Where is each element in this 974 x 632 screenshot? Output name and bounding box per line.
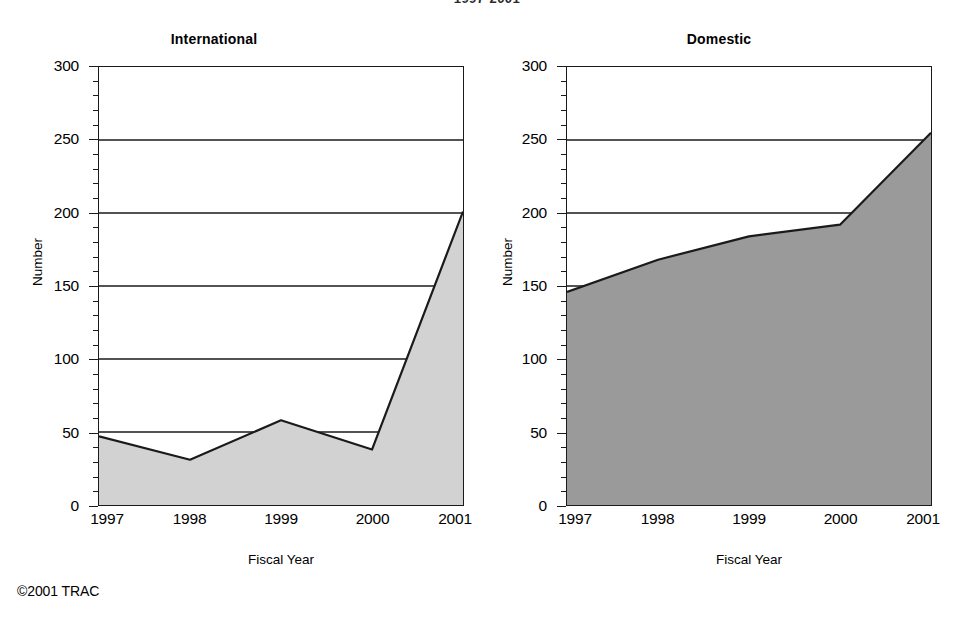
y-axis-major-tick xyxy=(89,433,98,434)
y-axis-tick-marks-domestic xyxy=(557,66,566,506)
chart-title-international: International xyxy=(0,31,464,47)
y-axis-major-tick xyxy=(89,506,98,507)
y-axis-tick-label: 200 xyxy=(522,204,547,222)
chart-panel-international: International 050100150200250300 1997199… xyxy=(0,0,500,632)
y-axis-major-tick xyxy=(89,213,98,214)
x-axis-tick-label: 1998 xyxy=(641,510,675,528)
area-fill-international xyxy=(99,212,463,505)
y-axis-major-tick xyxy=(557,213,566,214)
y-axis-tick-label: 200 xyxy=(54,204,79,222)
x-axis-title-international: Fiscal Year xyxy=(98,552,464,567)
y-axis-tick-label: 100 xyxy=(522,350,547,368)
y-axis-tick-label: 150 xyxy=(522,277,547,295)
x-axis-tick-label: 2001 xyxy=(438,510,472,528)
chart-title-domestic: Domestic xyxy=(482,31,956,47)
y-axis-tick-label: 0 xyxy=(539,497,547,515)
y-axis-major-tick xyxy=(557,286,566,287)
y-axis-major-tick xyxy=(557,433,566,434)
x-axis-tick-label: 1999 xyxy=(264,510,298,528)
y-axis-major-tick xyxy=(89,286,98,287)
y-axis-major-tick xyxy=(557,66,566,67)
y-axis-tick-label: 300 xyxy=(522,57,547,75)
x-axis-tick-labels-domestic: 19971998199920002001 xyxy=(566,510,932,532)
x-axis-tick-label: 2001 xyxy=(906,510,940,528)
y-axis-tick-label: 300 xyxy=(54,57,79,75)
x-axis-title-domestic: Fiscal Year xyxy=(566,552,932,567)
area-chart-svg-international xyxy=(99,67,463,505)
y-axis-tick-label: 100 xyxy=(54,350,79,368)
y-axis-tick-label: 50 xyxy=(530,424,547,442)
y-axis-tick-labels-domestic: 050100150200250300 xyxy=(512,66,556,506)
y-axis-major-tick xyxy=(557,139,566,140)
area-chart-svg-domestic xyxy=(567,67,931,505)
y-axis-tick-labels-international: 050100150200250300 xyxy=(44,66,88,506)
x-axis-tick-labels-international: 19971998199920002001 xyxy=(98,510,464,532)
y-axis-tick-label: 150 xyxy=(54,277,79,295)
x-axis-tick-label: 1999 xyxy=(732,510,766,528)
plot-area-domestic xyxy=(566,66,932,506)
y-axis-title-domestic: Number xyxy=(500,238,515,286)
x-axis-tick-label: 1997 xyxy=(558,510,592,528)
y-axis-tick-label: 250 xyxy=(54,130,79,148)
chart-panel-domestic: Domestic 050100150200250300 199719981999… xyxy=(500,0,974,632)
copyright-notice: ©2001 TRAC xyxy=(17,583,99,599)
y-axis-major-tick xyxy=(89,139,98,140)
x-axis-tick-label: 2000 xyxy=(356,510,390,528)
plot-area-international xyxy=(98,66,464,506)
y-axis-major-tick xyxy=(557,359,566,360)
x-axis-tick-label: 1997 xyxy=(90,510,124,528)
x-axis-tick-label: 2000 xyxy=(824,510,858,528)
y-axis-tick-label: 50 xyxy=(62,424,79,442)
x-axis-tick-label: 1998 xyxy=(173,510,207,528)
y-axis-tick-marks-international xyxy=(89,66,98,506)
y-axis-tick-label: 0 xyxy=(71,497,79,515)
y-axis-major-tick xyxy=(557,506,566,507)
y-axis-major-tick xyxy=(89,66,98,67)
y-axis-tick-label: 250 xyxy=(522,130,547,148)
y-axis-title-international: Number xyxy=(30,238,45,286)
y-axis-major-tick xyxy=(89,359,98,360)
